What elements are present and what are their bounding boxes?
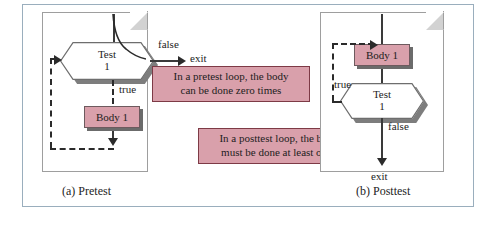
pretest-process-body1: Body 1 [84, 106, 140, 128]
callout-pretest-note: In a pretest loop, the body can be done … [152, 66, 310, 102]
process-label: Body 1 [366, 49, 398, 61]
pretest-true-label: true [119, 83, 136, 95]
pretest-exit-label: exit [190, 52, 207, 64]
posttest-entry-line [381, 14, 383, 46]
pretest-false-label: false [158, 38, 179, 50]
pretest-feedback-arrowhead-icon [54, 55, 62, 65]
pretest-feedback-bottom [50, 148, 114, 150]
pretest-true-line [112, 80, 114, 104]
posttest-exit-label: exit [371, 170, 388, 182]
posttest-feedback-bottom [332, 101, 342, 103]
pretest-decision-test1: Test 1 [60, 42, 154, 80]
posttest-caption: (b) Posttest [356, 184, 410, 199]
posttest-false-line [381, 118, 383, 162]
posttest-feedback-arrowhead-icon [370, 40, 378, 50]
page-fold-corner-icon [426, 12, 444, 30]
pretest-exit-arrowhead-icon [178, 56, 186, 66]
decision-outline [60, 42, 154, 80]
posttest-exit-arrowhead-icon [377, 158, 387, 166]
pretest-caption: (a) Pretest [62, 184, 111, 199]
posttest-false-label: false [388, 120, 409, 132]
posttest-feedback-left [332, 43, 334, 101]
pretest-body-exit-arrowhead-icon [108, 138, 118, 146]
posttest-decision-test1: Test 1 [340, 83, 424, 119]
process-label: Body 1 [96, 111, 128, 123]
callout-line-2: can be done zero times [159, 84, 303, 98]
figure-root: Test 1 false exit true Body 1 (a) Pretes… [0, 0, 482, 233]
pretest-false-line [150, 60, 180, 62]
posttest-true-label: true [334, 78, 351, 90]
posttest-process-body1: Body 1 [354, 44, 410, 66]
callout-line-1: In a pretest loop, the body [159, 70, 303, 84]
pretest-feedback-left [50, 58, 52, 148]
page-fold-corner-icon [130, 12, 148, 30]
posttest-feedback-top [332, 43, 374, 45]
pretest-entry-line [113, 14, 115, 44]
decision-outline [340, 83, 424, 119]
